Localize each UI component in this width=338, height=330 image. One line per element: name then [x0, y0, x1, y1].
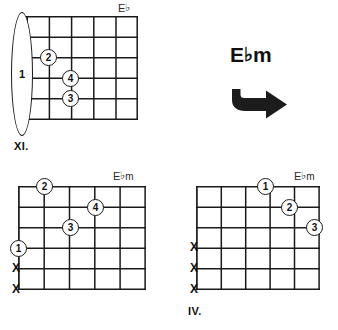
finger-number: 4 — [93, 202, 99, 213]
barre-indicator-1[interactable]: 1 — [11, 12, 33, 136]
finger-dot-2-2[interactable]: 4 — [87, 199, 104, 216]
finger-dot-3-2[interactable]: 2 — [281, 199, 298, 216]
barre-finger-number-1: 1 — [19, 68, 25, 80]
finger-number: 1 — [16, 243, 22, 254]
caption-accidental: ♭ — [244, 44, 253, 65]
finger-dot-3-3[interactable]: 3 — [306, 219, 323, 236]
muted-string-marker-2-1: X — [12, 262, 20, 274]
muted-string-marker-3-1: X — [190, 241, 198, 253]
finger-number: 3 — [68, 93, 74, 104]
muted-string-marker-3-3: X — [190, 283, 198, 295]
fretboard-grid-1-svg — [22, 16, 138, 120]
finger-dot-3-1[interactable]: 1 — [257, 178, 274, 195]
finger-dot-1-1[interactable]: 2 — [40, 49, 57, 66]
caption-quality: m — [253, 43, 272, 66]
position-marker-3: IV. — [188, 305, 202, 317]
chord-name-caption: E♭m — [230, 43, 272, 67]
chord-chart-canvas: E♭ 1 — [0, 0, 338, 330]
chord-label-2-accidental: ♭ — [120, 169, 125, 181]
finger-dot-1-2[interactable]: 4 — [62, 70, 79, 87]
muted-string-marker-3-2: X — [190, 262, 198, 274]
finger-number: 2 — [287, 202, 293, 213]
chord-diagram-3: E♭m 1 2 3 — [178, 168, 338, 330]
position-marker-1: XI. — [14, 140, 29, 152]
fretboard-grid-2-svg — [18, 186, 146, 290]
chord-label-3-quality: m — [306, 171, 314, 182]
chord-diagram-1: E♭ 1 — [0, 0, 160, 160]
chord-label-3-accidental: ♭ — [301, 169, 306, 181]
finger-dot-2-1[interactable]: 2 — [36, 178, 53, 195]
finger-dot-2-4[interactable]: 1 — [10, 240, 27, 257]
finger-number: 2 — [46, 52, 52, 63]
finger-dot-1-3[interactable]: 3 — [62, 90, 79, 107]
finger-dot-2-3[interactable]: 3 — [62, 219, 79, 236]
finger-number: 3 — [312, 222, 318, 233]
caption-root: E — [230, 43, 244, 66]
chord-label-2: E♭m — [113, 170, 134, 183]
fretboard-grid-1 — [22, 16, 138, 120]
fretboard-grid-3-svg — [196, 186, 320, 290]
chord-label-3: E♭m — [294, 170, 315, 183]
muted-string-marker-2-2: X — [12, 283, 20, 295]
fretboard-grid-2 — [18, 186, 146, 290]
chord-diagram-2: E♭m 2 4 3 — [0, 168, 165, 330]
finger-number: 3 — [68, 222, 74, 233]
right-arrow-icon-svg — [228, 86, 290, 120]
chord-label-1-accidental: ♭ — [125, 1, 130, 13]
finger-number: 2 — [42, 181, 48, 192]
finger-number: 4 — [68, 73, 74, 84]
chord-label-2-quality: m — [125, 171, 133, 182]
right-arrow-icon — [228, 86, 290, 124]
finger-number: 1 — [263, 181, 269, 192]
chord-label-1: E♭ — [118, 2, 130, 15]
fretboard-grid-3 — [196, 186, 320, 290]
